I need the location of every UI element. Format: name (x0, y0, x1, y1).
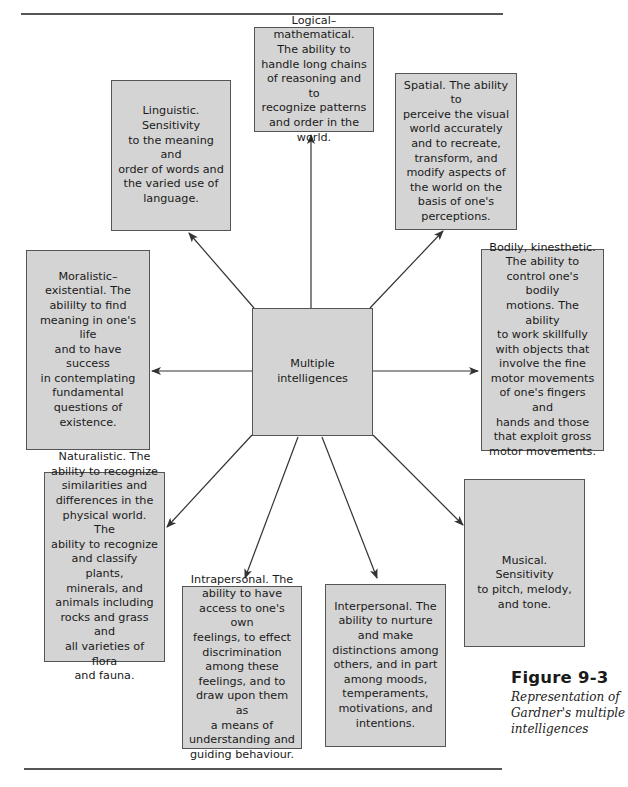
node-bodily-kinesthetic: Bodily, kinesthetic. The ability to cont… (481, 249, 604, 451)
node-text-line: hands and those (488, 416, 597, 431)
node-text-line: in contemplating (33, 372, 143, 387)
caption-line: intelligences (511, 721, 626, 737)
node-text-line: Linguistic. Sensitivity (118, 104, 224, 133)
node-text-line: rocks and grass and (51, 611, 158, 640)
node-text-line: feelings, and to (189, 675, 295, 690)
node-text-line: The ability to (261, 43, 367, 58)
node-text-line: Bodily, kinesthetic. (488, 241, 597, 256)
node-text-line: ability to nurture (332, 614, 438, 629)
node-text-line: world. (261, 131, 367, 146)
bottom-rule (24, 768, 502, 770)
node-text-line: world accurately (402, 122, 510, 137)
node-text-line: to pitch, melody, (471, 583, 578, 598)
node-text-line: and to have success (33, 343, 143, 372)
node-text-line: existence. (33, 416, 143, 431)
figure-label: Figure 9-3 (511, 668, 626, 687)
node-text-line: control one's bodily (488, 270, 597, 299)
node-text-line: ability to have (189, 587, 295, 602)
caption-line: Representation of (511, 689, 626, 705)
node-text-line: and order in the (261, 116, 367, 131)
node-text-line: of reasoning and to (261, 72, 367, 101)
node-text-line: access to one's own (189, 602, 295, 631)
node-text-line: and fauna. (51, 669, 158, 684)
node-text-line: and to recreate, (402, 137, 510, 152)
node-text-line: all varieties of flora (51, 640, 158, 669)
node-text-line: draw upon them as (189, 689, 295, 718)
node-text-line: motor movements (488, 372, 597, 387)
node-logical-mathematical: Logical–mathematical. The ability to han… (254, 27, 374, 132)
node-text-line: motions. The ability (488, 299, 597, 328)
node-text-line: temperaments, (332, 687, 438, 702)
node-text-line: of one's fingers and (488, 386, 597, 415)
node-text-line: existential. The (33, 284, 143, 299)
node-text-line: transform, and (402, 152, 510, 167)
node-text-line: discrimination (189, 646, 295, 661)
node-intrapersonal: Intrapersonal. The ability to have acces… (182, 586, 302, 749)
node-naturalistic: Naturalistic. The ability to recognize s… (44, 472, 165, 662)
node-text-line: perceptions. (402, 210, 510, 225)
node-text-line: Logical–mathematical. (261, 14, 367, 43)
node-text-line: and tone. (471, 598, 578, 613)
node-text-line: a means of (189, 719, 295, 734)
node-text-line: differences in the (51, 494, 158, 509)
node-text-line: motivations, and (332, 702, 438, 717)
arrow-to-interpersonal (322, 437, 377, 578)
arrow-to-musical (373, 435, 463, 525)
node-text-line: others, and in part (332, 658, 438, 673)
node-text-line: minerals, and (51, 582, 158, 597)
node-linguistic: Linguistic. Sensitivity to the meaning a… (111, 80, 231, 231)
node-text-line: perceive the visual (402, 108, 510, 123)
node-text-line: the varied use of (118, 177, 224, 192)
node-text-line: basis of one's (402, 195, 510, 210)
node-text-line: and classify plants, (51, 552, 158, 581)
node-text-line: abililty to find (33, 299, 143, 314)
node-text-line: with objects that (488, 343, 597, 358)
caption-line: Gardner's multiple (511, 705, 626, 721)
node-text-line: fundamental (33, 386, 143, 401)
node-text-line: among moods, (332, 673, 438, 688)
center-label-line: intelligences (277, 372, 348, 387)
node-moralistic-existential: Moralistic– existential. The abililty to… (26, 250, 150, 450)
node-text-line: Moralistic– (33, 270, 143, 285)
node-text-line: intentions. (332, 717, 438, 732)
figure-caption: Figure 9-3 Representation of Gardner's m… (511, 668, 626, 737)
arrow-to-intrapersonal (245, 437, 298, 578)
node-text-line: feelings, to effect (189, 631, 295, 646)
node-text-line: understanding and (189, 733, 295, 748)
node-text-line: to the meaning and (118, 134, 224, 163)
node-text-line: and make (332, 629, 438, 644)
node-text-line: the world on the (402, 181, 510, 196)
node-center-multiple-intelligences: Multiple intelligences (252, 308, 373, 436)
node-text-line: The ability to (488, 255, 597, 270)
node-text-line: Spatial. The ability to (402, 79, 510, 108)
node-text-line: questions of (33, 401, 143, 416)
node-text-line: guiding behaviour. (189, 748, 295, 763)
node-text-line: distinctions among (332, 644, 438, 659)
node-text-line: Naturalistic. The (51, 450, 158, 465)
node-text-line: recognize patterns (261, 101, 367, 116)
node-text-line: language. (118, 192, 224, 207)
arrow-to-naturalistic (167, 435, 252, 527)
node-spatial: Spatial. The ability to perceive the vis… (395, 73, 517, 230)
arrow-to-spatial (370, 231, 443, 308)
node-text-line: animals including (51, 596, 158, 611)
node-text-line: among these (189, 660, 295, 675)
node-text-line: meaning in one's life (33, 314, 143, 343)
node-text-line: Intrapersonal. The (189, 573, 295, 588)
node-text-line: to work skillfully (488, 328, 597, 343)
node-interpersonal: Interpersonal. The ability to nurture an… (325, 584, 446, 747)
node-musical: Musical. Sensitivity to pitch, melody, a… (464, 479, 585, 647)
node-text-line: involve the fine (488, 357, 597, 372)
node-text-line: motor movements. (488, 445, 597, 460)
node-text-line: similarities and (51, 479, 158, 494)
node-text-line: ability to recognize (51, 538, 158, 553)
center-label-line: Multiple (277, 357, 348, 372)
node-text-line: that exploit gross (488, 430, 597, 445)
node-text-line: handle long chains (261, 58, 367, 73)
node-text-line: order of words and (118, 163, 224, 178)
node-text-line: Musical. Sensitivity (471, 554, 578, 583)
node-text-line: Interpersonal. The (332, 600, 438, 615)
arrow-to-linguistic (189, 233, 254, 308)
figure-description: Representation of Gardner's multiple int… (511, 689, 626, 737)
node-text-line: physical world. The (51, 509, 158, 538)
